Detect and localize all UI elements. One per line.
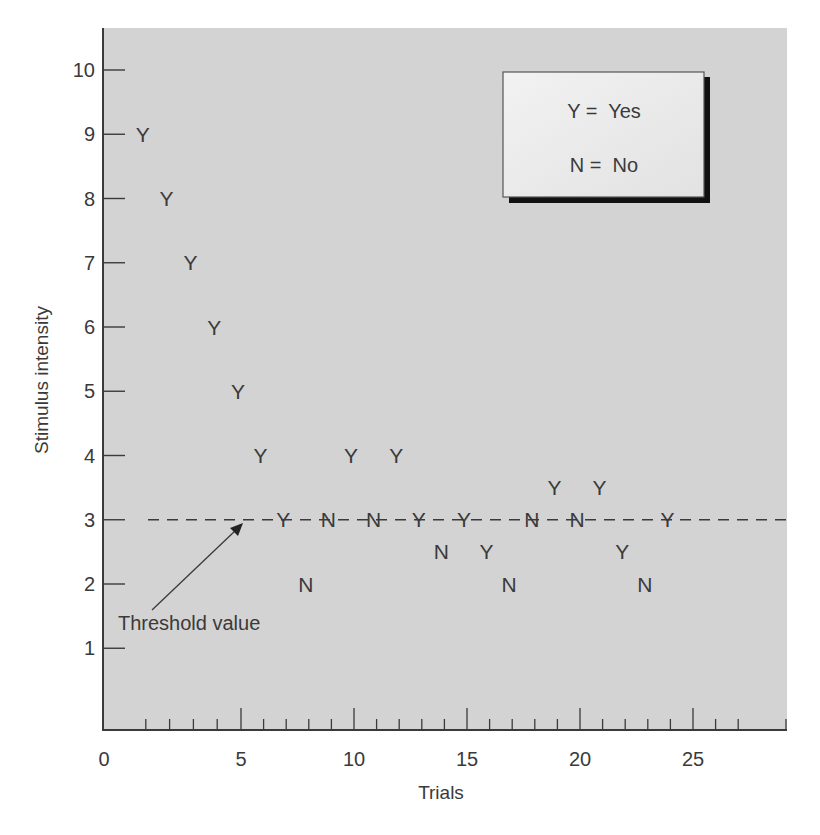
point-yes: Y [344, 444, 358, 467]
x-tick-label: 25 [682, 748, 704, 770]
y-tick-label: 3 [84, 509, 95, 531]
point-no: N [502, 573, 517, 596]
point-no: N [321, 508, 336, 531]
point-no: N [366, 508, 381, 531]
point-yes: Y [389, 444, 403, 467]
point-no: N [569, 508, 584, 531]
point-no: N [524, 508, 539, 531]
y-tick-label: 1 [84, 637, 95, 659]
point-yes: Y [231, 380, 245, 403]
y-tick-label: 5 [84, 380, 95, 402]
x-tick-label: 15 [456, 748, 478, 770]
point-yes: Y [480, 540, 494, 563]
x-tick-label: 5 [235, 748, 246, 770]
point-yes: Y [276, 508, 290, 531]
y-tick-label: 9 [84, 123, 95, 145]
x-tick-label: 10 [343, 748, 365, 770]
point-yes: Y [412, 508, 426, 531]
y-tick-label: 7 [84, 252, 95, 274]
x-axis-title: Trials [418, 782, 464, 803]
point-yes: Y [593, 476, 607, 499]
chart: 12345678910 0510152025 Trials Stimulus i… [0, 0, 820, 835]
point-yes: Y [457, 508, 471, 531]
point-yes: Y [160, 187, 174, 210]
legend-entry-no: N = No [570, 154, 638, 176]
y-axis-title: Stimulus intensity [31, 306, 52, 454]
y-tick-label: 4 [84, 445, 95, 467]
point-yes: Y [615, 540, 629, 563]
point-yes: Y [254, 444, 268, 467]
y-tick-label: 10 [73, 59, 95, 81]
y-tick-label: 6 [84, 316, 95, 338]
point-yes: Y [136, 123, 150, 146]
point-no: N [298, 573, 313, 596]
legend-entry-yes: Y = Yes [567, 100, 641, 122]
point-yes: Y [207, 316, 221, 339]
x-tick-label: 20 [569, 748, 591, 770]
point-yes: Y [547, 476, 561, 499]
threshold-label: Threshold value [118, 612, 260, 634]
legend: Y = Yes N = No [503, 72, 710, 203]
y-tick-label: 8 [84, 188, 95, 210]
point-no: N [637, 573, 652, 596]
x-tick-label: 0 [98, 748, 109, 770]
legend-box [503, 72, 704, 197]
point-no: N [434, 540, 449, 563]
point-yes: Y [660, 508, 674, 531]
point-yes: Y [183, 251, 197, 274]
y-tick-label: 2 [84, 573, 95, 595]
